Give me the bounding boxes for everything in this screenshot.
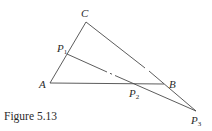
label-c: C [81, 7, 89, 19]
label-p3: P3 [190, 114, 202, 128]
label-b: B [169, 78, 176, 90]
label-p2: P2 [128, 87, 140, 101]
segment-p1p2-part3 [115, 76, 196, 112]
segment-cb-part1 [86, 22, 145, 68]
figure-caption: Figure 5.13 [4, 110, 57, 122]
label-a: A [38, 78, 46, 90]
segment-ca [50, 22, 86, 83]
label-p1: P1 [56, 42, 68, 56]
segment-cb-part2 [149, 71, 196, 111]
segment-ab [50, 83, 164, 84]
segment-p1p2-part2 [110, 73, 112, 74]
segment-p1p2-part1 [67, 54, 107, 72]
